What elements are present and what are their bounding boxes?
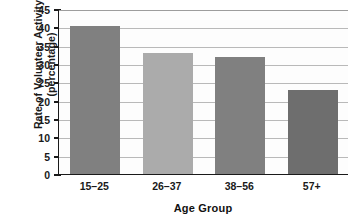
y-axis-tick-label: 10 bbox=[26, 133, 50, 144]
y-axis-tick-label: 40 bbox=[26, 23, 50, 34]
bar bbox=[288, 90, 338, 174]
bar bbox=[215, 57, 265, 174]
y-axis-tick-labels: 051015202530354045 bbox=[26, 0, 50, 222]
y-axis-tick-label: 45 bbox=[26, 5, 50, 16]
y-axis-tick-label: 35 bbox=[26, 41, 50, 52]
x-axis-tick-labels: 15–2526–3738–5657+ bbox=[58, 180, 348, 196]
y-axis-tick-label: 15 bbox=[26, 115, 50, 126]
plot-area bbox=[58, 10, 348, 175]
bar-chart: Rate of Volunteer Activity (percentage) … bbox=[0, 0, 356, 222]
x-axis-tick-label: 38–56 bbox=[203, 180, 276, 193]
y-axis-tick-label: 30 bbox=[26, 60, 50, 71]
bar-series bbox=[59, 10, 348, 174]
bar bbox=[70, 26, 120, 175]
y-axis-tick-label: 5 bbox=[26, 151, 50, 162]
x-axis-title: Age Group bbox=[58, 202, 348, 214]
x-axis-tick-label: 15–25 bbox=[58, 180, 131, 193]
x-axis-tick-label: 26–37 bbox=[131, 180, 204, 193]
bar bbox=[143, 53, 193, 174]
x-axis-tick-label: 57+ bbox=[276, 180, 349, 193]
y-axis-tick-label: 25 bbox=[26, 78, 50, 89]
y-axis-tick-label: 20 bbox=[26, 96, 50, 107]
y-axis-tick-label: 0 bbox=[26, 170, 50, 181]
